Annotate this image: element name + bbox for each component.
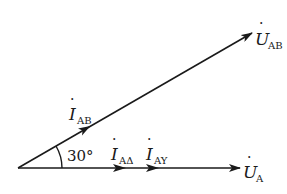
angle-label: 30°	[67, 147, 94, 165]
i-ay-label: · I AY	[145, 131, 168, 166]
i-adelta-subscript: AΔ	[118, 155, 133, 166]
i-adelta-symbol: I	[110, 144, 118, 164]
phasor-diagram: 30° · U AB · U A · I AB · I AΔ · I AY	[0, 0, 287, 194]
u-ab-label: · U AB	[255, 15, 283, 51]
u-a-subscript: A	[255, 173, 264, 184]
i-ab-subscript: AB	[76, 115, 92, 126]
i-adelta-label: · I AΔ	[110, 131, 133, 166]
i-ay-subscript: AY	[153, 155, 168, 166]
i-ay-symbol: I	[145, 144, 153, 164]
u-ab-subscript: AB	[267, 40, 283, 51]
u-ab-phasor-line	[18, 33, 252, 168]
angle-arc	[56, 146, 62, 168]
u-a-label: · U A	[243, 149, 264, 184]
i-ab-label: · I AB	[68, 91, 92, 126]
i-ab-symbol: I	[68, 104, 76, 124]
